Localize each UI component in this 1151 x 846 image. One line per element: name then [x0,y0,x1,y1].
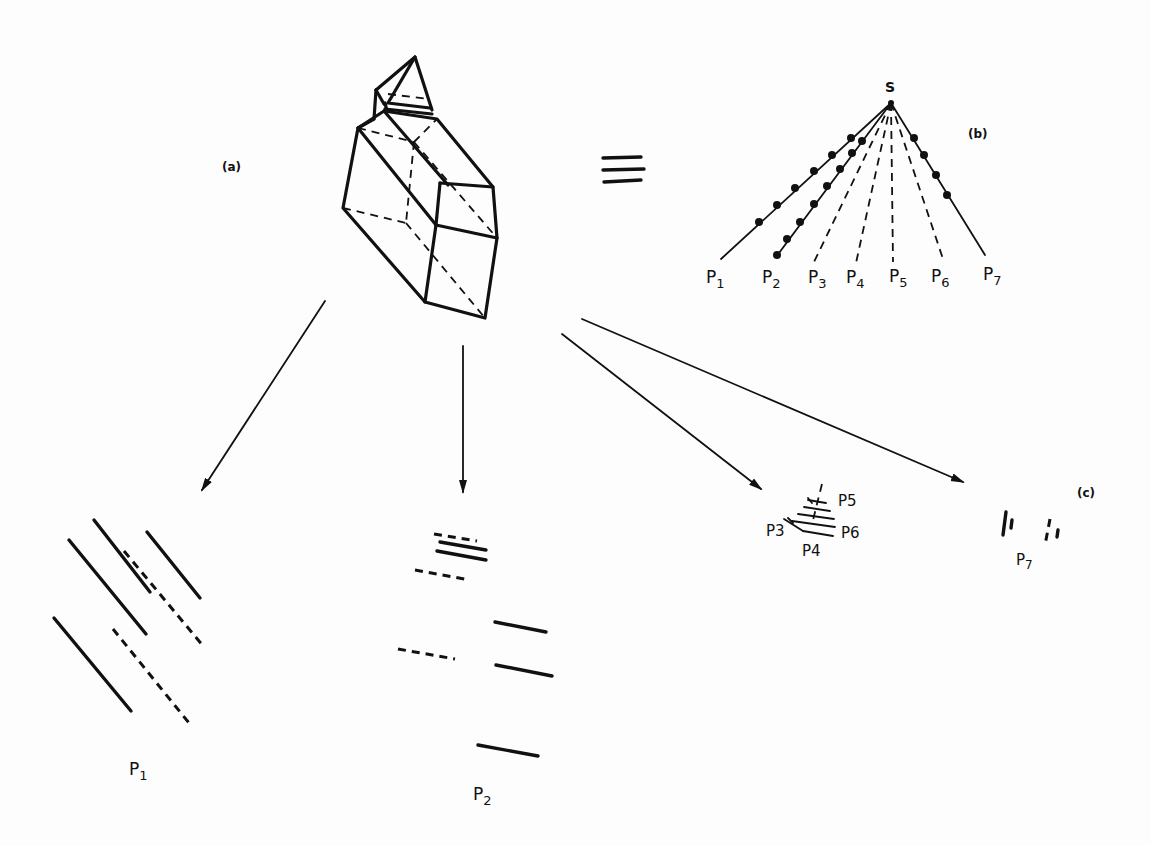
ray-label-p6: P6 [931,266,950,290]
projection-label-p6: P6 [841,524,860,542]
projection-p3-p6: P5 P6 P3 P4 [766,484,860,560]
projection-p7: P7 (c) [1003,486,1095,572]
projection-label-p3: P3 [766,522,785,540]
panel-label-b: (b) [968,127,988,141]
projection-arrows [202,301,963,492]
panel-label-c: (c) [1077,486,1095,500]
ray-label-p5: P5 [889,266,908,290]
source-label: S [885,79,895,95]
projection-p2: P2 [398,534,552,808]
projection-label-p5: P5 [838,492,857,510]
projection-label-p4: P4 [802,542,821,560]
projection-p1: P1 [54,520,204,783]
ray-label-p1: P1 [706,267,725,291]
equivalence-icon [603,157,644,182]
ray-label-p3: P3 [808,267,827,291]
ray-label-p7: P7 [983,264,1002,288]
projection-label-p7: P7 [1016,551,1033,572]
ray-fan: S (b) P1 P2 P3 P4 P5 P6 P7 [706,79,1002,291]
projection-label-p1: P1 [129,759,148,783]
ray-label-p2: P2 [762,267,781,291]
crystal-polyhedron [343,57,497,318]
diagram-canvas: (a) S (b) P1 P2 P3 P4 [0,0,1151,846]
ray-label-p4: P4 [846,267,865,291]
projection-label-p2: P2 [473,784,492,808]
panel-label-a: (a) [222,160,241,174]
